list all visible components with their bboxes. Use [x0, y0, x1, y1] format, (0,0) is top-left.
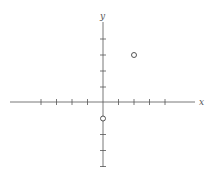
y-axis-label: y — [99, 11, 106, 21]
coordinate-plane: y x — [0, 0, 211, 177]
point-2-3 — [132, 53, 137, 58]
x-axis-label: x — [199, 97, 204, 107]
point-0-neg1 — [101, 116, 106, 121]
